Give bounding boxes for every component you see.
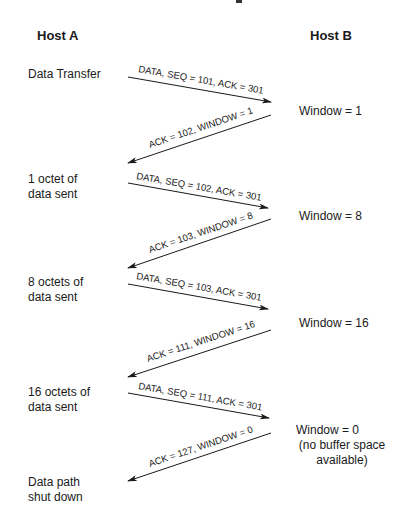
message-2: ACK = 102, WINDOW = 1 bbox=[128, 105, 271, 163]
svg-text:DATA, SEQ = 103, ACK = 301: DATA, SEQ = 103, ACK = 301 bbox=[136, 270, 263, 303]
message-4: ACK = 103, WINDOW = 8 bbox=[128, 210, 271, 268]
message-6: ACK = 111, WINDOW = 16 bbox=[128, 318, 271, 377]
svg-text:DATA, SEQ = 101, ACK = 301: DATA, SEQ = 101, ACK = 301 bbox=[138, 63, 265, 96]
message-1: DATA, SEQ = 101, ACK = 301 bbox=[128, 63, 271, 102]
svg-text:ACK = 127, WINDOW = 0: ACK = 127, WINDOW = 0 bbox=[147, 424, 254, 469]
svg-text:ACK = 103, WINDOW = 8: ACK = 103, WINDOW = 8 bbox=[147, 210, 254, 255]
svg-text:DATA, SEQ = 102, ACK = 301: DATA, SEQ = 102, ACK = 301 bbox=[136, 170, 263, 203]
message-3: DATA, SEQ = 102, ACK = 301 bbox=[128, 170, 268, 208]
svg-text:ACK = 111, WINDOW = 16: ACK = 111, WINDOW = 16 bbox=[145, 318, 256, 364]
svg-text:DATA, SEQ = 111, ACK = 301: DATA, SEQ = 111, ACK = 301 bbox=[138, 380, 264, 412]
message-5: DATA, SEQ = 103, ACK = 301 bbox=[128, 270, 268, 309]
svg-text:ACK = 102, WINDOW = 1: ACK = 102, WINDOW = 1 bbox=[147, 105, 254, 150]
message-arrows: DATA, SEQ = 101, ACK = 301 ACK = 102, WI… bbox=[0, 0, 394, 528]
message-8: ACK = 127, WINDOW = 0 bbox=[128, 424, 271, 481]
message-7: DATA, SEQ = 111, ACK = 301 bbox=[128, 380, 269, 418]
